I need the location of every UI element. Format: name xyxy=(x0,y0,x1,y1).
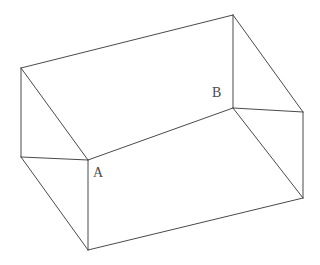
vertex-label-a: A xyxy=(93,166,103,180)
figure-canvas: A B xyxy=(0,0,320,265)
open-box-diagram xyxy=(0,0,320,265)
vertex-label-b: B xyxy=(212,86,221,100)
